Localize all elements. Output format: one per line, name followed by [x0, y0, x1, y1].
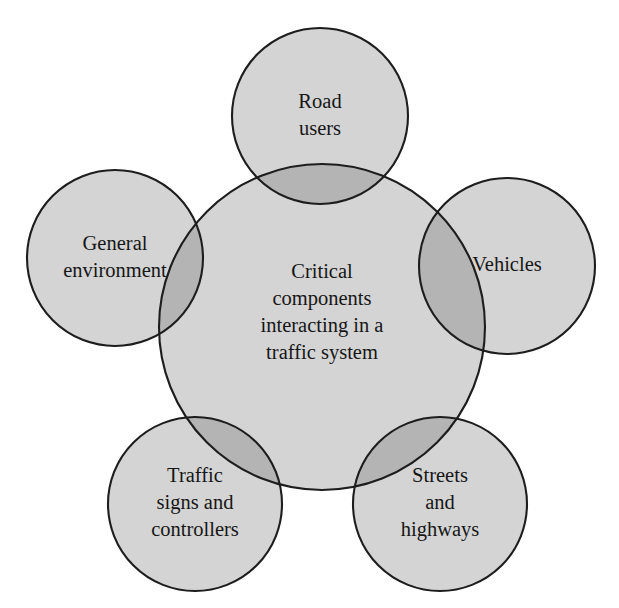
traffic-system-venn-diagram: Criticalcomponentsinteracting in atraffi… — [0, 0, 619, 608]
vehicles-label: Vehicles — [472, 253, 541, 275]
venn-diagram-canvas: Criticalcomponentsinteracting in atraffi… — [0, 0, 619, 608]
circle-fills — [27, 28, 595, 591]
